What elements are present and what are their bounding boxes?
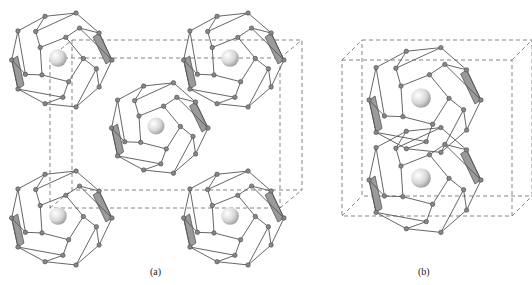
atom-node	[141, 168, 145, 172]
atom-node	[404, 227, 408, 231]
shaded-face	[265, 191, 284, 222]
atom-node	[181, 58, 185, 62]
atom-node	[367, 98, 371, 102]
atom-node	[269, 85, 273, 89]
atom-node	[171, 171, 175, 175]
atom-node	[266, 225, 270, 229]
atom-node	[249, 184, 253, 188]
atom-node	[132, 98, 136, 102]
atom-node	[282, 58, 286, 62]
dodecahedral-cage	[9, 169, 114, 267]
atom-node	[374, 130, 378, 134]
atom-node	[16, 87, 20, 91]
atom-node	[161, 104, 165, 108]
atom-node	[374, 145, 378, 149]
guest-sphere	[221, 207, 239, 225]
atom-node	[394, 66, 398, 70]
crystal-structure-figure	[0, 0, 532, 285]
atom-node	[464, 68, 468, 72]
atom-node	[94, 225, 98, 229]
atom-node	[401, 114, 405, 118]
guest-sphere	[411, 88, 431, 108]
atom-node	[367, 178, 371, 182]
atom-node	[33, 29, 37, 33]
atom-node	[210, 45, 214, 49]
atom-node	[43, 172, 47, 176]
atom-node	[479, 178, 483, 182]
atom-node	[443, 62, 447, 66]
atom-node	[447, 96, 451, 100]
panel-b-double-cage	[342, 40, 532, 235]
atom-node	[404, 129, 408, 133]
atom-node	[38, 45, 42, 49]
atom-node	[401, 194, 405, 198]
atom-node	[40, 231, 44, 235]
atom-node	[97, 189, 101, 193]
atom-node	[269, 189, 273, 193]
guest-sphere	[148, 118, 165, 135]
atom-node	[246, 105, 250, 109]
atom-node	[175, 95, 179, 99]
atom-node	[188, 29, 192, 33]
shaded-face	[461, 150, 481, 184]
atom-node	[61, 95, 65, 99]
atom-node	[269, 31, 273, 35]
atom-node	[141, 84, 145, 88]
caption-b: (b)	[418, 266, 430, 277]
atom-node	[399, 84, 403, 88]
shaded-face	[93, 33, 112, 64]
atom-node	[439, 125, 443, 129]
atom-node	[81, 214, 85, 218]
atom-node	[23, 230, 27, 234]
atom-node	[64, 193, 68, 197]
atom-node	[238, 80, 242, 84]
atom-node	[394, 146, 398, 150]
atom-node	[110, 216, 114, 220]
atom-node	[427, 73, 431, 77]
atom-node	[464, 208, 468, 212]
atom-node	[97, 31, 101, 35]
atom-node	[61, 253, 65, 257]
atom-node	[81, 56, 85, 60]
atom-node	[193, 100, 197, 104]
atom-node	[188, 245, 192, 249]
atom-node	[205, 187, 209, 191]
atom-node	[9, 216, 13, 220]
guest-sphere	[411, 168, 431, 188]
dodecahedral-cage	[181, 11, 286, 109]
atom-node	[137, 114, 141, 118]
atom-node	[246, 263, 250, 267]
atom-node	[16, 187, 20, 191]
atom-node	[404, 147, 408, 151]
atom-node	[97, 243, 101, 247]
shaded-face	[190, 102, 208, 132]
panel-a-unit-cell	[9, 11, 302, 267]
atom-node	[236, 193, 240, 197]
atom-node	[233, 95, 237, 99]
atom-node	[430, 122, 434, 126]
atom-node	[16, 29, 20, 33]
atom-node	[171, 81, 175, 85]
atom-node	[238, 238, 242, 242]
dodecahedral-cage	[9, 11, 114, 109]
atom-node	[110, 58, 114, 62]
atom-node	[399, 164, 403, 168]
caption-a: (a)	[150, 266, 161, 277]
dodecahedral-cage	[109, 81, 210, 176]
atom-node	[215, 14, 219, 18]
atom-node	[33, 187, 37, 191]
atom-node	[212, 73, 216, 77]
atom-node	[74, 263, 78, 267]
atom-node	[38, 203, 42, 207]
shaded-face	[461, 70, 481, 104]
atom-node	[215, 259, 219, 263]
atom-node	[246, 11, 250, 15]
guest-sphere	[49, 49, 67, 67]
guest-sphere	[49, 207, 67, 225]
atom-node	[123, 140, 127, 144]
atom-node	[479, 98, 483, 102]
atom-node	[164, 147, 168, 151]
atom-node	[236, 35, 240, 39]
atom-node	[269, 243, 273, 247]
atom-node	[443, 142, 447, 146]
